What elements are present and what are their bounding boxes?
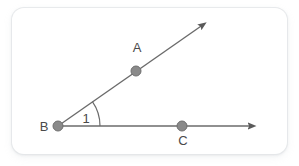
ray-ba [58, 25, 203, 126]
diagram-canvas: 1 A B C [0, 0, 299, 166]
point-b-label: B [40, 119, 49, 134]
point-c-dot [177, 121, 187, 131]
point-c-label: C [178, 133, 187, 148]
angle-arc [92, 102, 100, 126]
point-a-dot [131, 66, 141, 76]
angle-label-1: 1 [82, 111, 89, 126]
point-a-label: A [133, 40, 142, 55]
point-b-dot [53, 121, 63, 131]
angle-figure: 1 A B C [0, 0, 299, 166]
